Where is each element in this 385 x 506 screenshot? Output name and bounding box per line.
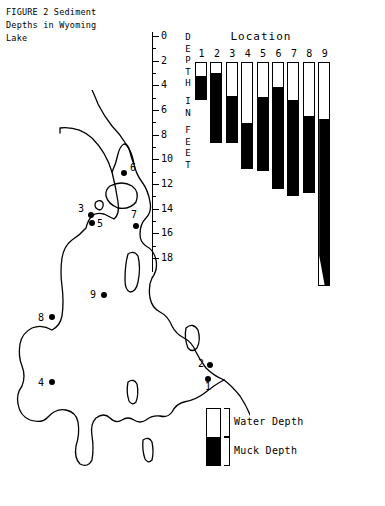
sample-point-label-3: 3	[78, 203, 84, 214]
axis-tick-3	[152, 73, 156, 74]
bar-8	[303, 62, 315, 193]
bar-6	[272, 62, 284, 189]
bar-label-3: 3	[225, 48, 240, 59]
axis-title-letter: D	[180, 32, 196, 44]
sample-point-dot-7	[133, 223, 139, 229]
sample-point-dot-6	[121, 170, 127, 176]
axis-title-letter: E	[180, 44, 196, 56]
bar-label-8: 8	[302, 48, 317, 59]
bar-7	[287, 62, 299, 196]
bar-9	[318, 62, 330, 286]
sample-point-dot-3	[88, 212, 94, 218]
lake-map: 123456789	[0, 90, 250, 506]
bar-muck-segment-7	[288, 100, 298, 195]
sample-point-dot-4	[49, 379, 55, 385]
sample-point-dot-2	[207, 362, 213, 368]
bar-label-2: 2	[209, 48, 224, 59]
bar-muck-segment-6	[273, 87, 283, 188]
axis-title-letter: P	[180, 55, 196, 67]
sample-point-label-2: 2	[198, 358, 204, 369]
sample-point-label-6: 6	[130, 162, 136, 173]
axis-tick-label-0: 0	[161, 31, 167, 41]
bar-muck-segment-5	[258, 97, 268, 170]
axis-title-letter: H	[180, 78, 196, 90]
bar-muck-segment-8	[304, 116, 314, 191]
sample-point-label-1: 1	[205, 381, 211, 392]
figure-caption: FIGURE 2 Sediment Depths in Wyoming Lake	[6, 6, 176, 45]
axis-title-letter: T	[180, 67, 196, 79]
sample-point-label-8: 8	[38, 312, 44, 323]
sample-point-label-9: 9	[90, 289, 96, 300]
bar-label-6: 6	[271, 48, 286, 59]
bar-muck-segment-9	[319, 119, 329, 285]
bar-label-5: 5	[256, 48, 271, 59]
axis-tick-0	[152, 36, 159, 37]
bar-5	[257, 62, 269, 171]
chart-title: Location	[186, 30, 336, 43]
bar-label-9: 9	[317, 48, 332, 59]
sample-point-dot-9	[101, 292, 107, 298]
axis-tick-label-2: 2	[161, 56, 167, 66]
sample-point-label-5: 5	[97, 218, 103, 229]
bar-label-4: 4	[240, 48, 255, 59]
axis-tick-2	[152, 61, 159, 62]
sample-point-dot-5	[89, 220, 95, 226]
figure-root: FIGURE 2 Sediment Depths in Wyoming Lake…	[0, 0, 385, 506]
sample-point-label-4: 4	[38, 377, 44, 388]
sample-point-label-7: 7	[131, 209, 137, 220]
bar-label-7: 7	[286, 48, 301, 59]
axis-tick-label-4: 4	[161, 80, 167, 90]
sample-point-dot-8	[49, 314, 55, 320]
lake-outline	[18, 90, 251, 465]
axis-tick-1	[152, 48, 156, 49]
axis-tick-4	[152, 85, 159, 86]
